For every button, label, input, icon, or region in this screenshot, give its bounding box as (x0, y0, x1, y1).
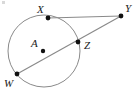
point-label-z: Z (84, 40, 90, 51)
diagram-canvas (0, 0, 139, 96)
point-label-x: X (37, 4, 44, 15)
point-label-a: A (31, 38, 38, 49)
point-z (76, 40, 81, 45)
point-label-y: Y (125, 3, 131, 14)
geometry-figure: X Y Z W A (0, 0, 139, 96)
point-label-w: W (4, 78, 13, 89)
point-w (15, 72, 20, 77)
point-a-center (41, 49, 45, 53)
point-y (119, 14, 124, 19)
point-x (46, 16, 51, 21)
segment-xy (48, 16, 121, 18)
